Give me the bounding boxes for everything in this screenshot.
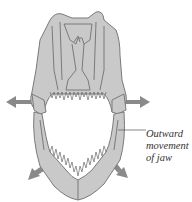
label-line-3: of jaw [146, 152, 189, 164]
lower-jaw [34, 112, 125, 200]
label-line-1: Outward [146, 128, 189, 140]
label-line-2: movement [146, 140, 189, 152]
upper-teeth [50, 92, 106, 100]
skull-diagram [0, 0, 192, 202]
arrow-upper-right [126, 96, 150, 108]
arrow-upper-left [6, 96, 34, 108]
jaw-movement-label: Outward movement of jaw [146, 128, 189, 164]
skull-upper [31, 12, 127, 112]
